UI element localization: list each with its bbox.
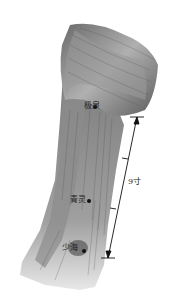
point-shaohai-dot bbox=[82, 249, 86, 253]
point-label-shaohai: 少海 bbox=[62, 244, 78, 252]
acupoint-figure: 极泉 青灵 少海 9寸 bbox=[0, 0, 174, 299]
point-label-qingling: 青灵 bbox=[70, 196, 86, 204]
point-label-jiquan: 极泉 bbox=[84, 102, 100, 110]
point-qingling-dot bbox=[87, 199, 91, 203]
arm-illustration bbox=[0, 0, 174, 299]
measurement-label: 9寸 bbox=[128, 178, 141, 186]
